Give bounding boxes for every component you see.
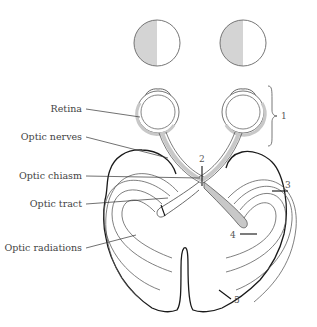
visual-pathway-diagram: Retina Optic nerves Optic chiasm Optic t… [0,0,317,327]
right-eyeball-icon [222,89,265,135]
optic-tracts [157,182,247,228]
left-eyeball-icon [137,89,179,134]
number-2: 2 [199,154,205,164]
visual-field-right [220,20,266,66]
label-optic-nerves: Optic nerves [21,131,82,142]
bracket-1 [268,86,277,146]
number-4: 4 [230,230,236,240]
label-optic-chiasm: Optic chiasm [19,170,82,181]
leader-optic-nerves [86,137,168,158]
optic-radiations-left [104,174,178,300]
label-optic-radiations: Optic radiations [4,242,82,253]
number-5: 5 [234,295,240,305]
leader-optic-chiasm [86,176,200,178]
visual-field-left [134,20,180,66]
number-1: 1 [281,111,287,121]
brain-outline-left [104,150,188,312]
tick-5 [219,290,231,299]
number-3: 3 [285,180,291,190]
label-optic-tract: Optic tract [30,198,82,209]
leader-retina [86,109,140,117]
leader-optic-tract [86,198,168,204]
label-retina: Retina [51,103,83,114]
